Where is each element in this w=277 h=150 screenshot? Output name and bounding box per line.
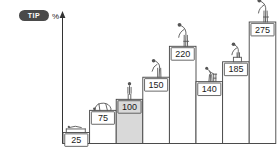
bar-group: 25 <box>63 126 90 146</box>
chart-root: TIP % 2575100150220140185275 <box>0 0 277 150</box>
bar-group: 275 <box>249 0 276 143</box>
figure-standing-icon <box>128 82 131 99</box>
bar-220 <box>169 46 196 143</box>
bar-group: 150 <box>143 59 170 144</box>
bar-value-label: 75 <box>98 113 108 123</box>
bar-value-label: 220 <box>175 49 190 59</box>
figure-with-walker-icon <box>205 67 217 82</box>
bar-group: 100 <box>116 82 143 143</box>
bar-group: 140 <box>196 67 223 144</box>
bar-value-label: 275 <box>255 25 270 35</box>
bar-value-label: 150 <box>149 80 164 90</box>
y-axis <box>60 11 66 144</box>
figure-leaning-icon <box>232 42 242 61</box>
bar-value-label: 25 <box>71 135 81 145</box>
bar-group: 220 <box>169 23 196 144</box>
bars-layer: 2575100150220140185275 <box>63 0 276 146</box>
figure-bending-deep-icon <box>257 0 268 22</box>
bar-chart: 2575100150220140185275 <box>0 0 277 150</box>
figure-bending-deep-icon <box>178 23 189 46</box>
bar-value-label: 185 <box>228 64 243 74</box>
bar-value-label: 140 <box>202 84 217 94</box>
bar-275 <box>249 22 276 144</box>
bar-group: 185 <box>223 42 250 143</box>
figure-lying-flat-icon <box>66 126 85 133</box>
bar-group: 75 <box>90 103 117 143</box>
figure-bending-forward-icon <box>152 59 161 77</box>
figure-crouching-icon <box>93 103 111 110</box>
bar-value-label: 100 <box>122 102 137 112</box>
